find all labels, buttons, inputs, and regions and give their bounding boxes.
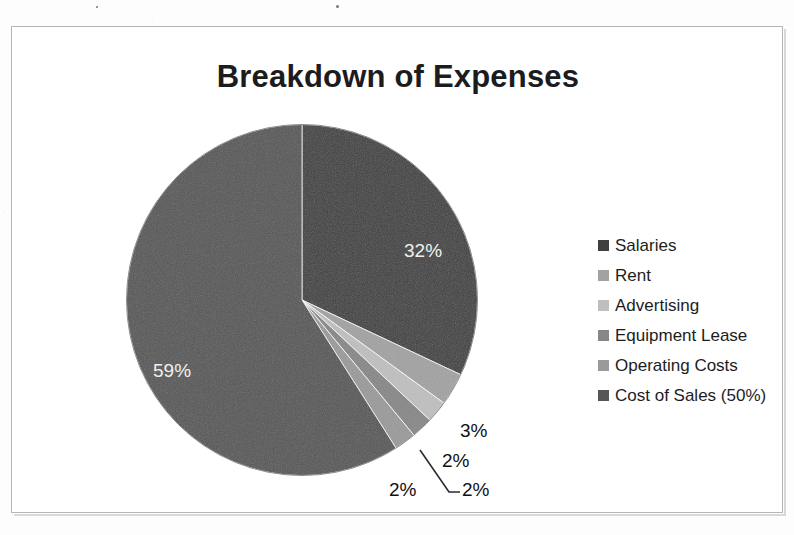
legend-item-label: Cost of Sales (50%) — [615, 387, 766, 404]
legend-item-operating-costs[interactable]: Operating Costs — [598, 350, 788, 380]
paper-speck — [152, 18, 153, 19]
legend-swatch-icon — [598, 360, 609, 371]
legend-item-label: Operating Costs — [615, 357, 738, 374]
legend-item-salaries[interactable]: Salaries — [598, 230, 788, 260]
pie-slice-group — [127, 125, 478, 476]
paper-speck — [3, 211, 4, 212]
data-label-operating-costs: 2% — [389, 479, 416, 501]
legend-item-rent[interactable]: Rent — [598, 260, 788, 290]
data-label-rent: 3% — [460, 420, 487, 442]
paper-speck — [96, 6, 98, 8]
data-label-advertising: 2% — [442, 450, 469, 472]
paper-speck — [12, 514, 13, 515]
chart-title: Breakdown of Expenses — [12, 59, 784, 95]
legend-item-cost-of-sales-50[interactable]: Cost of Sales (50%) — [598, 380, 788, 410]
pie-chart[interactable] — [121, 119, 481, 479]
legend-item-label: Equipment Lease — [615, 327, 747, 344]
legend-swatch-icon — [598, 240, 609, 251]
chart-frame: Breakdown of Expenses 32% 59% 3% 2% 2% 2… — [11, 26, 783, 513]
paper-speck — [386, 3, 387, 4]
data-label-cost-of-sales: 59% — [153, 360, 191, 382]
legend-swatch-icon — [598, 300, 609, 311]
legend-item-equipment-lease[interactable]: Equipment Lease — [598, 320, 788, 350]
legend-item-advertising[interactable]: Advertising — [598, 290, 788, 320]
legend-item-label: Rent — [615, 267, 651, 284]
legend-swatch-icon — [598, 390, 609, 401]
chart-legend: SalariesRentAdvertisingEquipment LeaseOp… — [598, 230, 788, 410]
legend-item-label: Advertising — [615, 297, 699, 314]
data-label-salaries: 32% — [404, 240, 442, 262]
legend-swatch-icon — [598, 330, 609, 341]
legend-swatch-icon — [598, 270, 609, 281]
legend-item-label: Salaries — [615, 237, 676, 254]
paper-speck — [336, 5, 339, 8]
data-label-equipment-lease: 2% — [462, 479, 489, 501]
pie-svg — [121, 119, 481, 479]
